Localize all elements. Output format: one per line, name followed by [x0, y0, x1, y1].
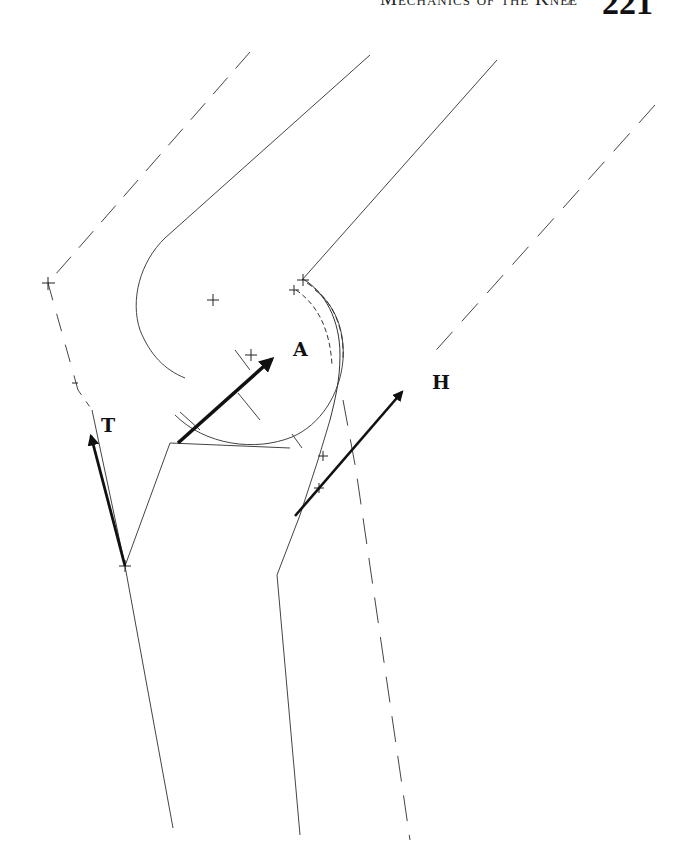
tibia-posterior-line — [125, 443, 173, 828]
crosshair-marker — [245, 349, 257, 361]
femur-anterior-line — [302, 60, 497, 280]
radial-tick — [292, 434, 302, 448]
force-vectors — [91, 359, 402, 566]
radial-tick — [238, 393, 260, 420]
crosshair-marker — [318, 451, 328, 461]
femur-condyle-outline — [136, 55, 370, 378]
radial-tick — [235, 350, 250, 370]
skin-anterior-dashed-line — [343, 400, 410, 840]
crosshair-marker — [297, 274, 309, 286]
label-t: T — [101, 414, 115, 436]
crosshair-marker — [289, 285, 299, 295]
tibia-outline — [92, 400, 410, 840]
vector-h-arrow — [295, 392, 402, 516]
label-a: A — [292, 338, 308, 360]
patella-arc-dashed — [307, 283, 343, 360]
femur-posterior-dashed-line — [48, 52, 250, 283]
label-h: H — [432, 371, 450, 393]
femur-outline — [48, 52, 655, 378]
vector-a-arrow — [178, 359, 272, 443]
tibia-anterior-line — [277, 420, 330, 835]
crosshair-marker — [207, 294, 219, 306]
knee-diagram: A T H — [0, 0, 689, 846]
leg-posterior-dashed — [48, 283, 92, 410]
calf-dashed-line — [48, 283, 78, 390]
femur-anterior-dashed-line — [430, 105, 655, 357]
vector-t-arrow — [91, 436, 125, 566]
crosshair-marker — [42, 277, 55, 290]
tibial-plateau-line — [170, 443, 290, 448]
reference-points — [42, 274, 328, 572]
condyle-circle — [170, 290, 343, 448]
